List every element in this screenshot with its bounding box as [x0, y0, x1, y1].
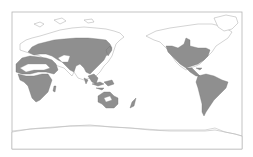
map-canvas	[0, 0, 253, 157]
world-distribution-map	[0, 0, 253, 157]
